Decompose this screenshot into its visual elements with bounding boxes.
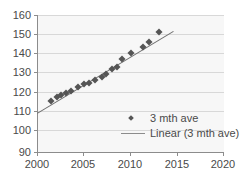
gridline-160 xyxy=(37,15,224,16)
y-tick-label-90: 90 xyxy=(0,147,31,158)
x-tick-label-2010: 2010 xyxy=(110,159,150,170)
x-tick-2020 xyxy=(223,152,224,156)
gridline-130 xyxy=(37,72,224,73)
y-axis-line xyxy=(37,15,38,153)
y-tick-140 xyxy=(34,53,37,54)
y-tick-label-160: 160 xyxy=(0,10,31,21)
legend-item-trendline: Linear (3 mth ave) xyxy=(120,126,239,140)
y-tick-130 xyxy=(34,72,37,73)
x-tick-label-2020: 2020 xyxy=(203,159,241,170)
y-tick-160 xyxy=(34,15,37,16)
legend-label-series: 3 mth ave xyxy=(146,113,198,124)
chart-legend: 3 mth ave Linear (3 mth ave) xyxy=(120,111,224,143)
y-tick-label-130: 130 xyxy=(0,67,31,78)
x-tick-2005 xyxy=(83,152,84,156)
line-marker-icon xyxy=(120,128,146,138)
x-tick-2010 xyxy=(130,152,131,156)
gridline-150 xyxy=(37,34,224,35)
diamond-marker-icon xyxy=(120,113,146,123)
x-tick-2015 xyxy=(177,152,178,156)
y-tick-label-100: 100 xyxy=(0,125,31,136)
x-tick-label-2000: 2000 xyxy=(17,159,57,170)
y-tick-label-110: 110 xyxy=(0,106,31,117)
y-tick-label-120: 120 xyxy=(0,87,31,98)
y-tick-100 xyxy=(34,130,37,131)
y-tick-150 xyxy=(34,34,37,35)
x-tick-2000 xyxy=(37,152,38,156)
y-tick-120 xyxy=(34,92,37,93)
x-tick-label-2005: 2005 xyxy=(63,159,103,170)
legend-item-series: 3 mth ave xyxy=(120,111,198,125)
legend-label-trendline: Linear (3 mth ave) xyxy=(146,128,239,139)
y-tick-label-150: 150 xyxy=(0,29,31,40)
x-tick-label-2015: 2015 xyxy=(157,159,197,170)
y-tick-label-140: 140 xyxy=(0,48,31,59)
chart-container: 160 150 140 130 120 110 100 90 2000 2005… xyxy=(0,0,241,177)
